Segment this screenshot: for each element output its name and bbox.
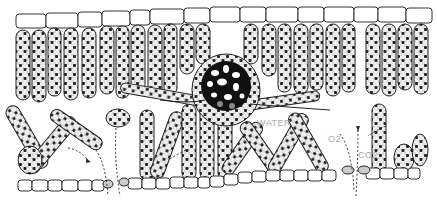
- label-o2: O2: [328, 134, 341, 144]
- label-water: WATER: [257, 118, 291, 128]
- leaf-illustration: [0, 0, 437, 207]
- leaf-cross-section-diagram: WATER O2 CO2: [0, 0, 437, 207]
- vascular-bundle: [192, 54, 260, 126]
- label-co2: CO2: [358, 150, 378, 160]
